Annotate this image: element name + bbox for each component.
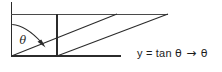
equation-equals-sign: = [146,47,153,59]
angle-arc-arrowhead [38,40,46,48]
figure-container: θ y = tan θ → θ [0,0,222,72]
angle-arc [12,25,41,43]
angle-theta-label: θ [20,34,27,47]
diagonal-line-one [12,14,118,56]
equation-theta-symbol: θ [175,47,182,60]
equation-arrow-icon: → [185,46,197,60]
equation-limit-theta-symbol: θ [201,47,208,60]
equation-tan-label: tan [156,47,172,59]
equation-annotation: y = tan θ → θ [137,47,208,60]
geometry-diagram: θ [0,0,222,72]
